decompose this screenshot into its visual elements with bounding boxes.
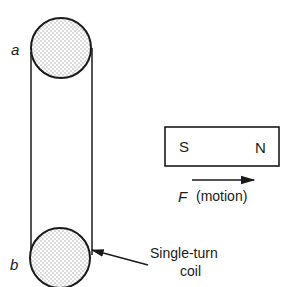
force-symbol: F: [178, 189, 187, 204]
magnet-pole-south: S: [179, 139, 189, 154]
conductor-a: [31, 18, 91, 78]
coil-callout-line1: Single-turn: [150, 246, 218, 260]
coil-callout-line2: coil: [180, 264, 201, 278]
label-a: a: [11, 42, 19, 57]
conductor-b: [30, 228, 90, 287]
magnet-pole-north: N: [255, 140, 266, 155]
coil-wires: [31, 48, 92, 255]
callout-arrow: [92, 250, 148, 265]
motion-label: (motion): [196, 189, 247, 203]
coil-magnet-diagram: [0, 0, 298, 287]
label-b: b: [10, 257, 18, 272]
